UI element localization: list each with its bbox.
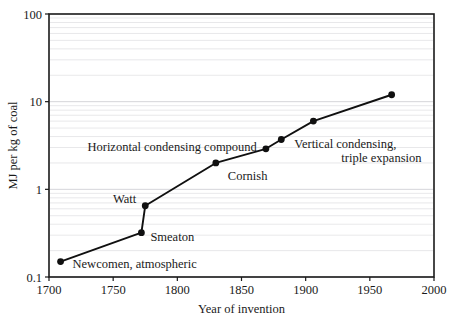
point-annotation: Cornish [228, 169, 268, 183]
y-axis-tick-labels: 0.1110100 [23, 8, 42, 285]
x-tick-label: 1700 [37, 283, 62, 297]
point-annotation: Newcomen, atmospheric [73, 257, 198, 271]
data-point [388, 91, 395, 98]
point-annotation: Smeaton [150, 230, 194, 244]
data-point [310, 118, 317, 125]
y-axis-title: MJ per kg of coal [6, 101, 20, 190]
y-tick-label: 1 [36, 183, 42, 197]
y-tick-label: 100 [23, 8, 42, 22]
x-axis-title: Year of invention [198, 302, 286, 316]
x-tick-label: 1950 [357, 283, 382, 297]
chart-container: 0.1110100 1700175018001850190019502000 N… [0, 0, 455, 323]
data-point [262, 145, 269, 152]
y-tick-label: 10 [30, 95, 43, 109]
data-point [138, 229, 145, 236]
efficiency-series-line [61, 95, 392, 262]
x-tick-label: 1850 [229, 283, 254, 297]
data-point [57, 258, 64, 265]
x-tick-label: 1800 [165, 283, 190, 297]
x-tick-label: 2000 [422, 283, 447, 297]
point-annotation: Watt [113, 192, 137, 206]
efficiency-data-points [57, 91, 395, 265]
point-annotation: Horizontal condensing compound [87, 140, 257, 154]
x-tick-label: 1900 [293, 283, 318, 297]
data-point [278, 136, 285, 143]
point-annotation: Vertical condensing, [294, 137, 396, 151]
data-point [142, 202, 149, 209]
data-point [212, 160, 219, 167]
x-axis-tick-labels: 1700175018001850190019502000 [37, 283, 447, 297]
x-tick-label: 1750 [101, 283, 126, 297]
steam-engine-efficiency-chart: 0.1110100 1700175018001850190019502000 N… [0, 0, 455, 323]
point-annotation: triple expansion [341, 151, 422, 165]
